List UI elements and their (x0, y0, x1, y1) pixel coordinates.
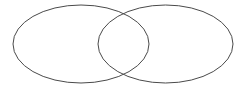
venn-diagram-canvas (0, 0, 246, 92)
venn-diagram-svg (0, 0, 246, 92)
